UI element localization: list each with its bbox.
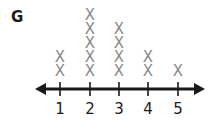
x-mark-icon: X [114, 20, 124, 38]
tick-label-5: 5 [173, 100, 183, 118]
x-mark-icon: X [55, 48, 65, 66]
data-marks: XXXXXXXXXXXXXX [55, 6, 183, 80]
tick-label-3: 3 [114, 100, 124, 118]
tick-label-1: 1 [55, 100, 65, 118]
line-plot: 12345 XXXXXXXXXXXXXX [0, 0, 214, 127]
x-mark-icon: X [85, 6, 95, 24]
left-arrow-icon [35, 83, 46, 95]
tick-label-2: 2 [85, 100, 95, 118]
x-mark-icon: X [143, 48, 153, 66]
right-arrow-icon [194, 83, 205, 95]
tick-label-4: 4 [143, 100, 153, 118]
axis-ticks: 12345 [55, 82, 183, 118]
x-mark-icon: X [173, 62, 183, 80]
